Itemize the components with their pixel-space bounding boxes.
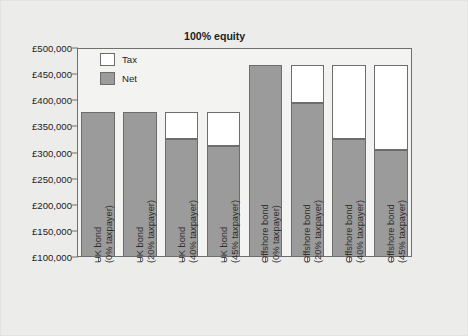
y-axis-tick-mark — [72, 204, 78, 205]
y-axis-tick-label: £200,000 — [4, 199, 72, 210]
x-axis-label-4: UK bond(45% taxpayer) — [219, 200, 241, 263]
x-axis-label-line1: Offshore bond — [302, 204, 312, 263]
chart-title: 100% equity — [184, 30, 245, 42]
legend-item-tax: Tax — [100, 51, 137, 67]
legend-label-tax: Tax — [122, 54, 137, 65]
x-axis-label-line2: (40% taxpayer) — [355, 200, 366, 263]
chart-figure: 100% equity £100,000£150,000£200,000£250… — [0, 0, 468, 336]
y-axis-tick-mark — [72, 257, 78, 258]
y-axis-tick-label: £150,000 — [4, 225, 72, 236]
x-axis-label-line2: (0% taxpayer) — [104, 205, 115, 263]
x-axis-label-line1: UK bond — [93, 227, 103, 263]
bar-segment-tax — [332, 65, 366, 139]
y-axis-tick-mark — [72, 126, 78, 127]
y-axis-tick-label: £350,000 — [4, 121, 72, 132]
x-axis-label-6: Offshore bond(20% taxpayer) — [302, 200, 324, 263]
y-axis-tick-label: £300,000 — [4, 147, 72, 158]
x-axis-label-line2: (20% taxpayer) — [313, 200, 324, 263]
legend-swatch-tax-icon — [100, 53, 115, 66]
bar-segment-tax — [374, 65, 408, 150]
y-axis-tick-mark — [72, 74, 78, 75]
y-axis-tick-label: £500,000 — [4, 43, 72, 54]
x-axis-label-line2: (40% taxpayer) — [188, 200, 199, 263]
y-axis-tick-mark — [72, 48, 78, 49]
x-axis-label-1: UK bond(0% taxpayer) — [93, 205, 115, 263]
x-axis-label-line1: Offshore bond — [344, 204, 354, 263]
x-axis-label-line2: (45% taxpayer) — [397, 200, 408, 263]
legend: Tax Net — [100, 51, 137, 89]
y-axis-tick-label: £250,000 — [4, 173, 72, 184]
bar-segment-tax — [207, 112, 241, 146]
bar-segment-tax — [291, 65, 325, 103]
x-axis-label-line2: (0% taxpayer) — [271, 204, 282, 263]
x-axis-label-5: Offshore bond(0% taxpayer) — [260, 204, 282, 263]
x-axis-label-line1: Offshore bond — [260, 204, 270, 263]
y-axis-tick-mark — [72, 152, 78, 153]
x-axis-label-line1: UK bond — [135, 227, 145, 263]
y-axis-tick-mark — [72, 100, 78, 101]
x-axis-label-line1: UK bond — [219, 227, 229, 263]
x-axis-label-2: UK bond(20% taxpayer) — [135, 200, 157, 263]
bar-segment-tax — [165, 112, 199, 139]
legend-item-net: Net — [100, 70, 137, 86]
y-axis-tick-mark — [72, 230, 78, 231]
y-axis-tick-label: £450,000 — [4, 69, 72, 80]
x-axis-label-line2: (45% taxpayer) — [230, 200, 241, 263]
y-axis-tick-label: £100,000 — [4, 252, 72, 263]
x-axis-label-line1: UK bond — [177, 227, 187, 263]
y-axis-tick-mark — [72, 178, 78, 179]
x-axis-label-7: Offshore bond(40% taxpayer) — [344, 200, 366, 263]
x-axis-label-8: Offshore bond(45% taxpayer) — [386, 200, 408, 263]
legend-swatch-net-icon — [100, 72, 115, 85]
x-axis-label-line1: Offshore bond — [386, 204, 396, 263]
y-axis-tick-label: £400,000 — [4, 95, 72, 106]
x-axis-label-3: UK bond(40% taxpayer) — [177, 200, 199, 263]
legend-label-net: Net — [122, 73, 137, 84]
x-axis-label-line2: (20% taxpayer) — [146, 200, 157, 263]
